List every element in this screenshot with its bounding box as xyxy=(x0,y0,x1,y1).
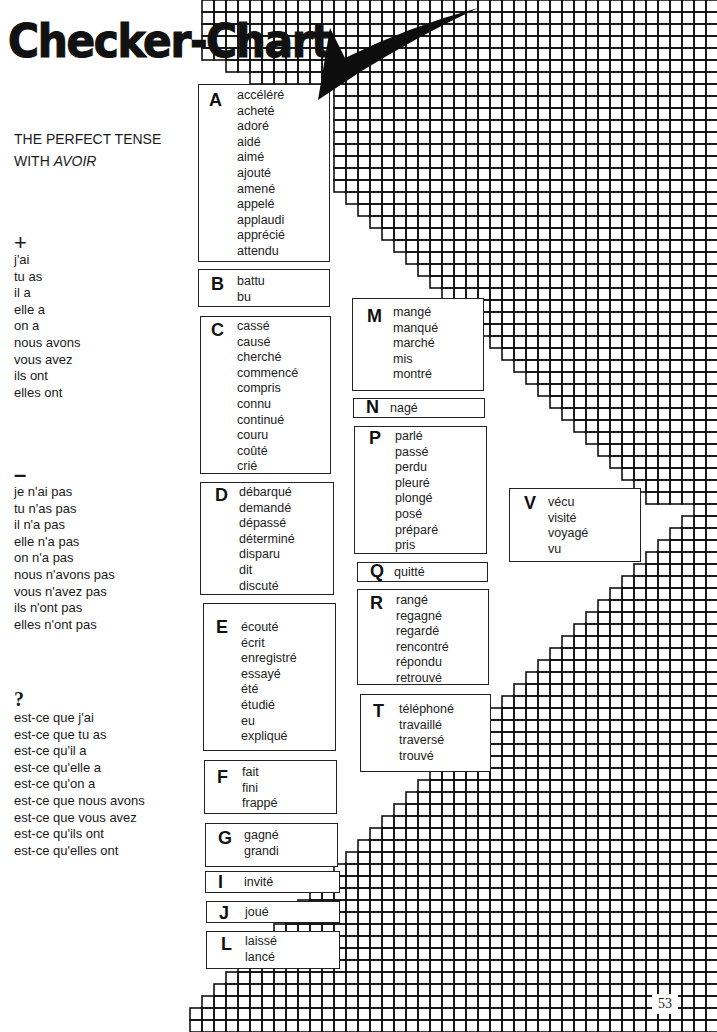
past-participle: causé xyxy=(237,335,298,351)
past-participle: plongé xyxy=(395,491,438,507)
past-participle: regardé xyxy=(396,624,449,640)
box-word-list: battubu xyxy=(237,274,265,305)
negative-line: vous n'avez pas xyxy=(14,584,115,601)
past-participle: rangé xyxy=(396,593,449,609)
past-participle: perdu xyxy=(395,460,438,476)
past-participle: enregistré xyxy=(241,651,297,667)
box-letter: L xyxy=(221,934,232,955)
box-word-list: invité xyxy=(244,875,273,891)
past-participle: nagé xyxy=(390,401,418,417)
past-participle: lancé xyxy=(245,950,277,966)
past-participle: ajouté xyxy=(237,166,285,182)
negative-line: elles n'ont pas xyxy=(14,617,115,634)
negative-group: – je n'ai pastu n'as pasil n'a paselle n… xyxy=(14,466,115,633)
subtitle: THE PERFECT TENSE WITH AVOIR xyxy=(14,128,161,172)
verb-box-i: Iinvité xyxy=(205,871,340,893)
past-participle: visité xyxy=(548,511,588,527)
box-letter: V xyxy=(524,493,536,514)
past-participle: bu xyxy=(237,290,265,306)
question-line: est-ce qu'elles ont xyxy=(14,843,145,860)
affirmative-line: il a xyxy=(14,285,81,302)
past-participle: retrouvé xyxy=(396,671,449,687)
past-participle: fini xyxy=(242,781,277,797)
past-participle: laissé xyxy=(245,934,277,950)
question-mark-icon: ? xyxy=(14,688,145,710)
question-line: est-ce qu'il a xyxy=(14,743,145,760)
past-participle: parlé xyxy=(395,429,438,445)
box-letter: M xyxy=(367,306,382,327)
past-participle: cassé xyxy=(237,319,298,335)
past-participle: apprécié xyxy=(237,228,285,244)
past-participle: mangé xyxy=(393,305,438,321)
box-word-list: cassécausécherchécommencécomprisconnucon… xyxy=(237,319,298,475)
past-participle: préparé xyxy=(395,523,438,539)
verb-box-m: Mmangémanquémarchémismontré xyxy=(352,298,484,391)
box-letter: T xyxy=(373,701,384,722)
box-letter: I xyxy=(218,872,223,893)
past-participle: répondu xyxy=(396,655,449,671)
past-participle: travaillé xyxy=(399,718,454,734)
past-participle: marché xyxy=(393,336,438,352)
negative-line: ils n'ont pas xyxy=(14,600,115,617)
box-letter: N xyxy=(366,397,379,418)
subtitle-prefix: WITH xyxy=(14,153,54,169)
affirmative-line: nous avons xyxy=(14,335,81,352)
question-line: est-ce qu'ils ont xyxy=(14,826,145,843)
subtitle-line-1: THE PERFECT TENSE xyxy=(14,128,161,150)
question-line: est-ce que tu as xyxy=(14,727,145,744)
past-participle: dépassé xyxy=(239,516,295,532)
negative-line: on n'a pas xyxy=(14,550,115,567)
verb-box-p: Pparlépasséperdupleuréplongéposépréparép… xyxy=(354,426,487,554)
past-participle: connu xyxy=(237,397,298,413)
verb-box-g: Ggagnégrandi xyxy=(205,823,338,867)
past-participle: invité xyxy=(244,875,273,891)
box-word-list: écoutéécritenregistréessayéétéétudiéeuex… xyxy=(241,620,297,745)
question-lines: est-ce que j'aiest-ce que tu asest-ce qu… xyxy=(14,710,145,859)
checkmark-icon xyxy=(0,0,717,120)
verb-box-l: Llaissélancé xyxy=(206,931,340,969)
past-participle: mis xyxy=(393,352,438,368)
negative-lines: je n'ai pastu n'as pasil n'a paselle n'a… xyxy=(14,484,115,633)
box-word-list: parlépasséperdupleuréplongéposépréparépr… xyxy=(395,429,438,554)
past-participle: écrit xyxy=(241,636,297,652)
minus-icon: – xyxy=(14,466,115,484)
past-participle: gagné xyxy=(244,828,279,844)
past-participle: voyagé xyxy=(548,526,588,542)
plus-icon: + xyxy=(14,234,81,252)
past-participle: été xyxy=(241,682,297,698)
past-participle: cherché xyxy=(237,350,298,366)
box-letter: J xyxy=(219,903,229,924)
box-word-list: nagé xyxy=(390,401,418,417)
verb-box-d: Ddébarquédemandédépassédéterminédisparud… xyxy=(200,482,334,595)
question-line: est-ce qu'elle a xyxy=(14,760,145,777)
subtitle-avoir: AVOIR xyxy=(54,153,97,169)
past-participle: aimé xyxy=(237,150,285,166)
negative-line: il n'a pas xyxy=(14,517,115,534)
affirmative-lines: j'aitu asil aelle aon anous avonsvous av… xyxy=(14,252,81,401)
past-participle: regagné xyxy=(396,609,449,625)
past-participle: aidé xyxy=(237,135,285,151)
past-participle: frappé xyxy=(242,796,277,812)
verb-box-q: Qquitté xyxy=(357,562,488,582)
past-participle: coûté xyxy=(237,444,298,460)
past-participle: quitté xyxy=(394,565,425,581)
page-number: 53 xyxy=(652,994,678,1014)
past-participle: vu xyxy=(548,542,588,558)
box-letter: D xyxy=(215,485,228,506)
box-word-list: mangémanquémarchémismontré xyxy=(393,305,438,383)
verb-box-n: Nnagé xyxy=(353,398,485,418)
verb-box-c: Ccassécausécherchécommencécomprisconnuco… xyxy=(200,316,331,474)
box-word-list: débarquédemandédépassédéterminédisparudi… xyxy=(239,485,295,594)
subtitle-line-2: WITH AVOIR xyxy=(14,150,161,172)
past-participle: appelé xyxy=(237,197,285,213)
question-line: est-ce que nous avons xyxy=(14,793,145,810)
box-letter: B xyxy=(211,274,224,295)
box-word-list: quitté xyxy=(394,565,425,581)
question-group: ? est-ce que j'aiest-ce que tu asest-ce … xyxy=(14,688,145,859)
affirmative-line: j'ai xyxy=(14,252,81,269)
box-letter: P xyxy=(369,428,381,449)
past-participle: eu xyxy=(241,714,297,730)
box-letter: G xyxy=(218,828,232,849)
past-participle: continué xyxy=(237,413,298,429)
past-participle: amené xyxy=(237,182,285,198)
